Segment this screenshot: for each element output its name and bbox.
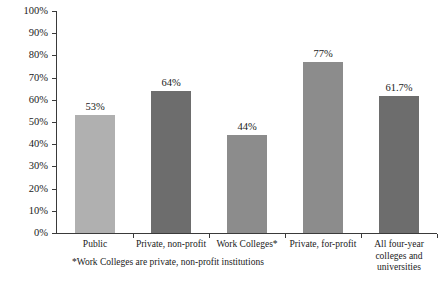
x-tick-mark <box>285 234 286 238</box>
bar: 77% <box>303 62 343 233</box>
y-tick-mark <box>52 211 56 212</box>
y-tick-label: 80% <box>0 50 48 60</box>
y-tick-mark <box>52 33 56 34</box>
y-tick-mark <box>52 189 56 190</box>
bar: 61.7% <box>379 96 419 233</box>
y-tick-label: 0% <box>0 228 48 238</box>
x-axis-line <box>56 233 437 234</box>
bar-chart: 0%10%20%30%40%50%60%70%80%90%100% 53%64%… <box>0 0 445 281</box>
y-tick-mark <box>52 122 56 123</box>
bar-value-label: 77% <box>313 48 332 59</box>
x-axis-label: Private, non-profit <box>133 239 209 251</box>
y-tick-label: 70% <box>0 73 48 83</box>
x-axis-label: Private, for-profit <box>285 239 361 251</box>
plot-area: 53%64%44%77%61.7% <box>57 11 437 233</box>
bar-value-label: 64% <box>161 77 180 88</box>
y-tick-label: 90% <box>0 28 48 38</box>
x-tick-mark <box>133 234 134 238</box>
bar-value-label: 53% <box>85 101 104 112</box>
y-tick-mark <box>52 100 56 101</box>
y-tick-label: 40% <box>0 139 48 149</box>
y-tick-label: 100% <box>0 6 48 16</box>
y-tick-mark <box>52 233 56 234</box>
chart-footnote: *Work Colleges are private, non-profit i… <box>72 257 264 268</box>
x-tick-mark <box>437 234 438 238</box>
y-tick-mark <box>52 55 56 56</box>
y-tick-mark <box>52 144 56 145</box>
y-tick-mark <box>52 166 56 167</box>
bar: 53% <box>75 115 115 233</box>
x-tick-mark <box>209 234 210 238</box>
y-tick-mark <box>52 11 56 12</box>
x-axis-label: All four-year colleges and universities <box>361 239 437 274</box>
bar: 64% <box>151 91 191 233</box>
y-tick-label: 30% <box>0 161 48 171</box>
y-tick-label: 50% <box>0 117 48 127</box>
x-tick-mark <box>361 234 362 238</box>
x-axis-label: Public <box>57 239 133 251</box>
x-axis-label: Work Colleges* <box>209 239 285 251</box>
y-tick-label: 10% <box>0 206 48 216</box>
bar: 44% <box>227 135 267 233</box>
y-tick-mark <box>52 78 56 79</box>
y-tick-label: 20% <box>0 184 48 194</box>
bar-value-label: 61.7% <box>385 82 412 93</box>
y-tick-label: 60% <box>0 95 48 105</box>
bar-value-label: 44% <box>237 121 256 132</box>
